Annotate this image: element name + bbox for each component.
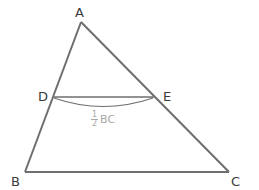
triangle-diagram: A B C D E 1 2 BC xyxy=(0,0,259,190)
fraction-denominator: 2 xyxy=(92,120,97,128)
vertex-label-d: D xyxy=(38,90,48,103)
vertex-label-a: A xyxy=(75,6,84,19)
vertex-label-c: C xyxy=(231,175,240,188)
half-bc-annotation: 1 2 BC xyxy=(91,111,115,128)
fraction: 1 2 xyxy=(91,111,98,128)
annotation-text: BC xyxy=(100,114,115,125)
vertex-label-b: B xyxy=(11,175,20,188)
measure-arc xyxy=(54,98,153,107)
vertex-label-e: E xyxy=(163,90,171,103)
